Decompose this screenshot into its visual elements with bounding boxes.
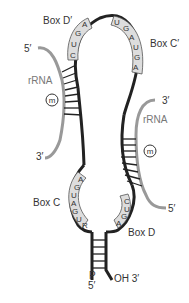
box-c-prime-label: Box C′: [150, 38, 179, 49]
snorna-diagram: m 5′ rRNA 3′ m 3′ rRNA 5′ C U G A Box D′…: [0, 0, 189, 303]
rrna-left-label: rRNA: [28, 75, 53, 86]
rrna-left-5prime: 5′: [24, 43, 32, 54]
methyl-label-left: m: [49, 96, 56, 105]
stem-base-pairs: [92, 240, 106, 268]
nt: G: [134, 53, 140, 62]
rrna-left-3prime: 3′: [36, 151, 44, 162]
box-c-label: Box C: [33, 197, 60, 208]
nt: G: [123, 24, 129, 33]
box-d: C U G A: [114, 194, 130, 228]
rrna-right-3prime: 3′: [162, 95, 170, 106]
nt: A: [82, 20, 88, 29]
box-c: A G U A G U R: [69, 172, 88, 230]
nt: C: [70, 51, 76, 60]
box-d-label: Box D: [128, 227, 155, 238]
methyl-label-right: m: [147, 147, 154, 156]
rrna-right-5prime: 5′: [168, 203, 176, 214]
nt: G: [121, 212, 127, 221]
rrna-right-label: rRNA: [143, 114, 168, 125]
box-d-prime-label: Box D′: [43, 15, 72, 26]
nt: A: [129, 33, 135, 42]
box-c-prime: U G A U G A: [111, 16, 143, 74]
nt: U: [133, 43, 139, 52]
nt: U: [114, 18, 120, 27]
stem-5prime-label: 5′: [88, 280, 96, 291]
stem-3prime-label: OH 3′: [114, 273, 139, 284]
nt: A: [116, 219, 122, 228]
nt: U: [71, 40, 77, 49]
nt: R: [82, 221, 88, 230]
nt: G: [75, 29, 81, 38]
nt: A: [133, 63, 139, 72]
